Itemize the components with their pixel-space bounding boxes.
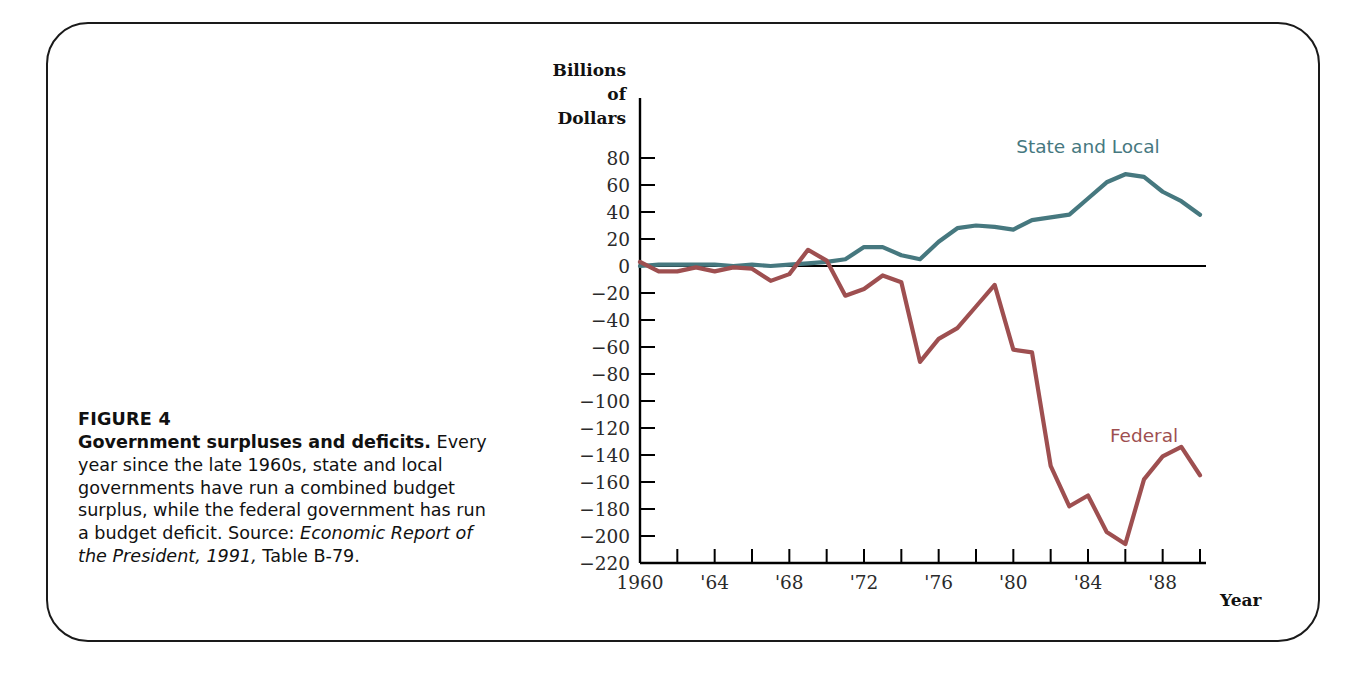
- series-line-state-and-local: [640, 174, 1200, 266]
- y-axis-tick-label: −140: [579, 445, 630, 466]
- y-axis-title-line-2: of: [607, 84, 627, 104]
- y-axis-tick-label: −120: [579, 418, 630, 439]
- figure-source-prefix: Source:: [228, 523, 300, 543]
- y-axis-tick-label: 20: [606, 229, 630, 250]
- y-axis-tick-label: −160: [579, 472, 630, 493]
- y-axis-tick-label: −200: [579, 526, 630, 547]
- chart-axes: 806040200−20−40−60−80−100−120−140−160−18…: [579, 98, 1206, 593]
- x-axis-tick-label: '76: [924, 572, 953, 593]
- figure-title: Government surpluses and deficits.: [78, 432, 431, 452]
- y-axis-title: Billions of Dollars: [553, 60, 628, 128]
- series-label-federal: Federal: [1110, 425, 1178, 446]
- y-axis-tick-label: −40: [591, 310, 630, 331]
- figure-number-label: FIGURE 4: [78, 408, 498, 431]
- y-axis-tick-label: −20: [591, 283, 630, 304]
- x-axis-tick-label: '88: [1148, 572, 1177, 593]
- x-axis-tick-label: 1960: [616, 572, 663, 593]
- government-surpluses-deficits-chart: Billions of Dollars 806040200−20−40−60−8…: [530, 40, 1330, 640]
- x-axis-tick-label: '84: [1074, 572, 1103, 593]
- series-label-state-and-local: State and Local: [1016, 136, 1159, 157]
- y-axis-tick-label: 80: [606, 148, 630, 169]
- figure-source-suffix: Table B-79.: [257, 546, 360, 566]
- x-axis-tick-label: '80: [999, 572, 1028, 593]
- x-axis-tick-label: '68: [775, 572, 804, 593]
- y-axis-title-line-1: Billions: [553, 60, 626, 80]
- series-line-federal: [640, 250, 1200, 544]
- y-axis-title-line-3: Dollars: [557, 108, 626, 128]
- y-axis-tick-label: −220: [579, 553, 630, 574]
- figure-caption: FIGURE 4 Government surpluses and defici…: [78, 408, 498, 568]
- y-axis-tick-label: 60: [606, 175, 630, 196]
- x-axis-tick-label: '72: [850, 572, 879, 593]
- y-axis-tick-label: −100: [579, 391, 630, 412]
- y-axis-tick-label: 40: [606, 202, 630, 223]
- x-axis-title: Year: [1219, 590, 1262, 610]
- y-axis-tick-label: −80: [591, 364, 630, 385]
- chart-container: Billions of Dollars 806040200−20−40−60−8…: [530, 40, 1330, 640]
- y-axis-tick-label: −60: [591, 337, 630, 358]
- chart-series-group: [640, 174, 1200, 544]
- y-axis-tick-label: −180: [579, 499, 630, 520]
- y-axis-tick-label: 0: [618, 256, 630, 277]
- x-axis-tick-label: '64: [700, 572, 729, 593]
